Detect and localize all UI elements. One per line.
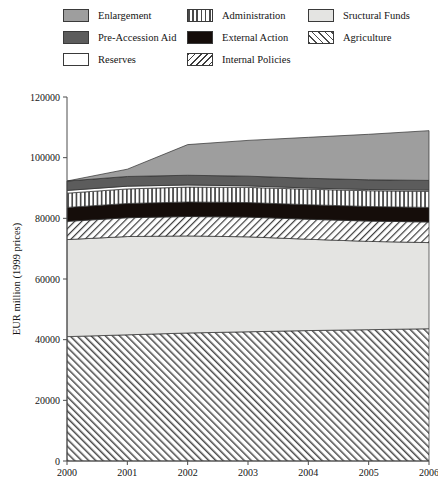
legend-item-administration[interactable]: Administration: [187, 9, 286, 22]
legend-swatch-enlargement-icon: [63, 9, 89, 22]
legend-label-internal-policies: Internal Policies: [222, 53, 291, 66]
legend-item-pre-accession-aid[interactable]: Pre-Accession Aid: [63, 31, 176, 44]
legend-swatch-structural-funds-icon: [308, 9, 334, 22]
y-tick-label: 100000: [30, 152, 60, 163]
area-band-enlargement: [67, 131, 429, 181]
y-tick-label: 120000: [30, 92, 60, 103]
legend-item-external-action[interactable]: External Action: [187, 31, 288, 44]
legend-label-external-action: External Action: [222, 31, 288, 44]
legend-label-agriculture: Agriculture: [343, 31, 391, 44]
legend-swatch-reserves-icon: [63, 53, 89, 66]
stacked-area-chart: 020000400006000080000100000120000 200020…: [0, 76, 438, 497]
x-tick-label: 2000: [57, 467, 77, 478]
x-tick-label: 2002: [178, 467, 198, 478]
legend-item-enlargement[interactable]: Enlargement: [63, 9, 151, 22]
chart-area: 020000400006000080000100000120000 200020…: [0, 76, 438, 497]
x-tick-label: 2006: [419, 467, 438, 478]
page-header-note: [110, 0, 430, 9]
legend-swatch-external-action-icon: [187, 31, 213, 44]
x-tick-label: 2004: [298, 467, 318, 478]
legend-swatch-internal-policies-icon: [187, 53, 213, 66]
chart-series-group: [67, 131, 429, 461]
x-tick-label: 2003: [238, 467, 258, 478]
chart-legend: Enlargement Pre-Accession Aid Reserves A…: [63, 9, 433, 71]
legend-item-reserves[interactable]: Reserves: [63, 53, 136, 66]
y-tick-label: 40000: [35, 334, 60, 345]
legend-item-structural-funds[interactable]: Sructural Funds: [308, 9, 410, 22]
legend-swatch-administration-icon: [187, 9, 213, 22]
y-tick-label: 20000: [35, 395, 60, 406]
y-axis-title: EUR million (1999 prices): [11, 222, 23, 335]
legend-label-structural-funds: Sructural Funds: [343, 9, 410, 22]
legend-swatch-pre-accession-aid-icon: [63, 31, 89, 44]
y-tick-label: 60000: [35, 274, 60, 285]
legend-swatch-agriculture-icon: [308, 31, 334, 44]
area-band-agriculture: [67, 329, 429, 461]
x-axis-ticks: 2000200120022003200420052006: [57, 461, 438, 478]
area-band-sructural-funds: [67, 236, 429, 337]
legend-label-enlargement: Enlargement: [98, 9, 151, 22]
chart-page: Enlargement Pre-Accession Aid Reserves A…: [0, 0, 438, 497]
y-tick-label: 0: [55, 456, 60, 467]
x-tick-label: 2005: [359, 467, 379, 478]
legend-item-agriculture[interactable]: Agriculture: [308, 31, 391, 44]
y-tick-label: 80000: [35, 213, 60, 224]
legend-item-internal-policies[interactable]: Internal Policies: [187, 53, 291, 66]
legend-label-reserves: Reserves: [98, 53, 136, 66]
legend-label-pre-accession-aid: Pre-Accession Aid: [98, 31, 176, 44]
y-axis-ticks: 020000400006000080000100000120000: [30, 92, 67, 467]
legend-label-administration: Administration: [222, 9, 286, 22]
x-tick-label: 2001: [117, 467, 137, 478]
